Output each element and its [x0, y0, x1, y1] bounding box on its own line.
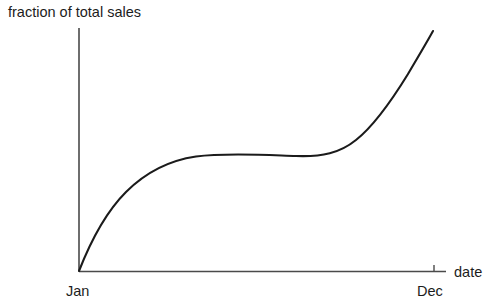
chart-figure: fraction of total sales date Jan Dec — [0, 0, 484, 304]
y-axis-label: fraction of total sales — [8, 4, 141, 20]
x-tick-label-dec: Dec — [417, 283, 443, 299]
chart-canvas: fraction of total sales date Jan Dec — [0, 0, 484, 304]
x-axis-label: date — [454, 264, 482, 280]
sales-curve — [79, 31, 433, 271]
x-tick-label-jan: Jan — [66, 283, 89, 299]
